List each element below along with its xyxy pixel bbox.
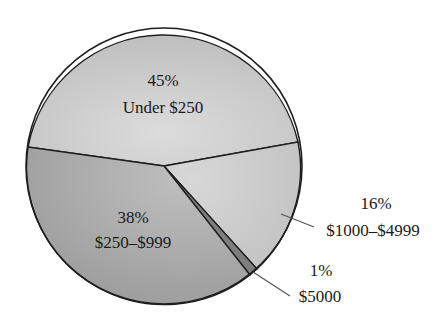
leader-line-5000 — [253, 272, 290, 296]
label-5000-percent: 1% — [310, 261, 333, 280]
label-250-999-name: $250–$999 — [95, 233, 172, 252]
label-1000-4999-percent: 16% — [360, 194, 391, 213]
label-under-250-percent: 45% — [147, 71, 178, 90]
label-under-250-name: Under $250 — [123, 98, 204, 117]
label-5000-name: $5000 — [299, 287, 342, 306]
label-1000-4999-name: $1000–$4999 — [326, 221, 420, 240]
pie-chart: 45% Under $250 38% $250–$999 16% $1000–$… — [0, 0, 448, 330]
label-250-999-percent: 38% — [117, 208, 148, 227]
